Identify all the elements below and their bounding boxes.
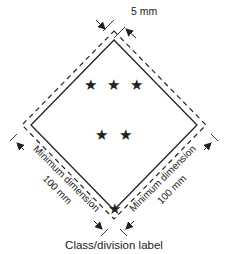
star-icon: ★ <box>95 126 108 143</box>
border-width-indicator: 5 mm <box>96 5 158 38</box>
star-icon: ★ <box>108 200 121 217</box>
caption: Class/division label <box>65 239 163 251</box>
label-diagram: 5 mm ★ ★ ★ ★ ★ ★ Minimum dimension 100 m… <box>0 0 231 254</box>
star-icon: ★ <box>130 76 143 93</box>
star-icon: ★ <box>107 76 120 93</box>
diagram-canvas: 5 mm ★ ★ ★ ★ ★ ★ Minimum dimension 100 m… <box>0 0 231 254</box>
border-width-label: 5 mm <box>131 5 158 17</box>
star-icon: ★ <box>119 126 132 143</box>
star-icon: ★ <box>84 76 97 93</box>
